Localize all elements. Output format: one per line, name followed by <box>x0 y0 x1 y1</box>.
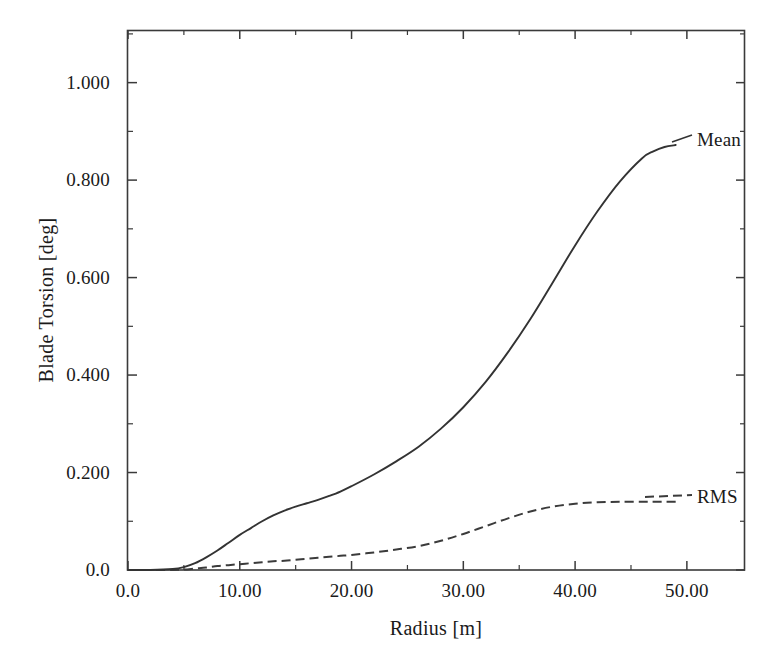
series-label-mean: Mean <box>697 129 741 151</box>
mean-label-leader-icon <box>672 135 692 142</box>
plot-canvas <box>0 0 782 657</box>
x-tick-label: 20.00 <box>330 580 374 602</box>
x-axis-title: Radius [m] <box>390 617 482 640</box>
plot-frame <box>128 31 745 571</box>
axis-ticks <box>128 30 745 570</box>
series-line-rms <box>128 502 676 570</box>
series-label-rms: RMS <box>697 486 738 508</box>
chart-figure: 0.00.2000.4000.6000.8001.0000.010.0020.0… <box>0 0 782 657</box>
x-tick-label: 0.0 <box>116 580 140 602</box>
x-tick-label: 50.00 <box>665 580 709 602</box>
rms-label-leader-icon <box>645 495 692 497</box>
y-tick-label: 0.800 <box>0 169 110 191</box>
y-tick-label: 1.000 <box>0 72 110 94</box>
series-line-mean <box>128 145 676 570</box>
x-tick-label: 30.00 <box>441 580 485 602</box>
y-axis-title: Blade Torsion [deg] <box>35 217 58 382</box>
x-tick-label: 10.00 <box>218 580 262 602</box>
y-tick-label: 0.200 <box>0 462 110 484</box>
y-tick-label: 0.0 <box>0 559 110 581</box>
x-tick-label: 40.00 <box>553 580 597 602</box>
